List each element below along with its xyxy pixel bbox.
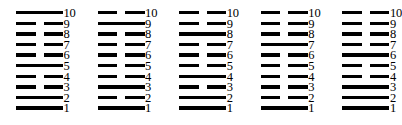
broken-line: [342, 61, 389, 72]
column-5: 10987654321: [342, 8, 402, 114]
line-segment-right: [44, 75, 64, 78]
line-segment-left: [98, 96, 118, 99]
solid-line: [342, 93, 389, 104]
broken-line: [16, 40, 63, 51]
line-segment-right: [125, 43, 145, 46]
column-1: 10987654321: [16, 8, 76, 114]
solid-line: [16, 8, 63, 19]
line-segment: [179, 75, 226, 78]
line-segment-left: [179, 85, 199, 88]
line-segment-left: [16, 22, 36, 25]
broken-line: [16, 72, 63, 83]
solid-line: [342, 50, 389, 61]
solid-line: [98, 103, 145, 114]
solid-line: [179, 29, 226, 40]
line-segment-right: [370, 43, 390, 46]
broken-line: [179, 40, 226, 51]
broken-line: [342, 8, 389, 19]
line-segment-right: [44, 85, 64, 88]
line-segment-right: [370, 64, 390, 67]
line-segment-right: [207, 11, 227, 14]
column-2: 10987654321: [98, 8, 158, 114]
line-segment: [98, 22, 145, 25]
broken-line: [98, 29, 145, 40]
solid-line: [16, 93, 63, 104]
broken-line: [342, 19, 389, 30]
line-segment-right: [44, 53, 64, 56]
line-segment-left: [98, 75, 118, 78]
line-segment: [98, 106, 145, 109]
line-segment-right: [207, 43, 227, 46]
line-segment-left: [261, 22, 281, 25]
solid-line: [98, 82, 145, 93]
line-segment-right: [207, 53, 227, 56]
line-segment-left: [16, 43, 36, 46]
line-segment-left: [98, 43, 118, 46]
line-segment-left: [179, 43, 199, 46]
line-segment-left: [16, 53, 36, 56]
solid-line: [98, 19, 145, 30]
line-segment-right: [370, 32, 390, 35]
line-segment: [98, 85, 145, 88]
line-segment-left: [261, 11, 281, 14]
broken-line: [261, 50, 308, 61]
line-segment-right: [44, 32, 64, 35]
broken-line: [16, 19, 63, 30]
broken-line: [261, 82, 308, 93]
line-segment-right: [288, 85, 308, 88]
line-segment-left: [261, 64, 281, 67]
line-segment-left: [98, 53, 118, 56]
column-3: 10987654321: [179, 8, 239, 114]
solid-line: [179, 103, 226, 114]
line-segment: [342, 106, 389, 109]
line-segment-left: [16, 32, 36, 35]
line-segment: [16, 64, 63, 67]
line-segment-left: [261, 85, 281, 88]
broken-line: [261, 8, 308, 19]
line-segment: [261, 106, 308, 109]
broken-line: [342, 29, 389, 40]
line-segment-left: [342, 75, 362, 78]
line-segment-right: [207, 85, 227, 88]
line-number-label: 1: [63, 103, 70, 114]
solid-line: [261, 103, 308, 114]
line-number-label: 1: [308, 103, 315, 114]
line-segment-left: [16, 85, 36, 88]
broken-line: [179, 82, 226, 93]
broken-line: [179, 8, 226, 19]
line-segment: [179, 32, 226, 35]
broken-line: [98, 61, 145, 72]
broken-line: [261, 61, 308, 72]
line-segment-right: [288, 64, 308, 67]
broken-line: [261, 19, 308, 30]
line-segment-right: [288, 22, 308, 25]
solid-line: [342, 82, 389, 93]
line-segment-left: [16, 75, 36, 78]
line-segment-right: [125, 53, 145, 56]
line-number-label: 1: [226, 103, 233, 114]
line-segment-right: [125, 64, 145, 67]
line-segment-right: [370, 11, 390, 14]
line-segment-right: [370, 22, 390, 25]
line-segment-right: [207, 64, 227, 67]
line-segment-right: [44, 22, 64, 25]
solid-line: [16, 61, 63, 72]
line-segment: [342, 85, 389, 88]
line-segment-left: [179, 11, 199, 14]
line-segment-right: [288, 11, 308, 14]
broken-line: [16, 50, 63, 61]
line-row: 1: [16, 103, 76, 114]
broken-line: [342, 72, 389, 83]
broken-line: [179, 61, 226, 72]
line-segment-left: [342, 22, 362, 25]
line-segment-left: [98, 32, 118, 35]
line-number-label: 1: [389, 103, 396, 114]
solid-line: [179, 93, 226, 104]
line-segment-left: [179, 53, 199, 56]
broken-line: [16, 82, 63, 93]
line-row: 1: [261, 103, 321, 114]
line-number-label: 1: [145, 103, 152, 114]
line-segment-left: [342, 43, 362, 46]
line-segment-left: [179, 64, 199, 67]
